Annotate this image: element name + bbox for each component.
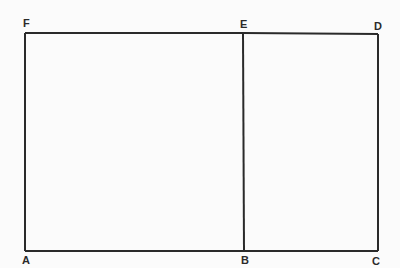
segment-be	[243, 33, 244, 251]
label-d: D	[374, 20, 382, 32]
label-e: E	[240, 18, 247, 30]
label-b: B	[241, 254, 249, 266]
rectangle-diagram: F E D A B C	[0, 0, 400, 268]
label-a: A	[22, 254, 30, 266]
label-c: C	[372, 255, 380, 267]
segment-ed	[243, 33, 378, 34]
label-f: F	[23, 17, 30, 29]
